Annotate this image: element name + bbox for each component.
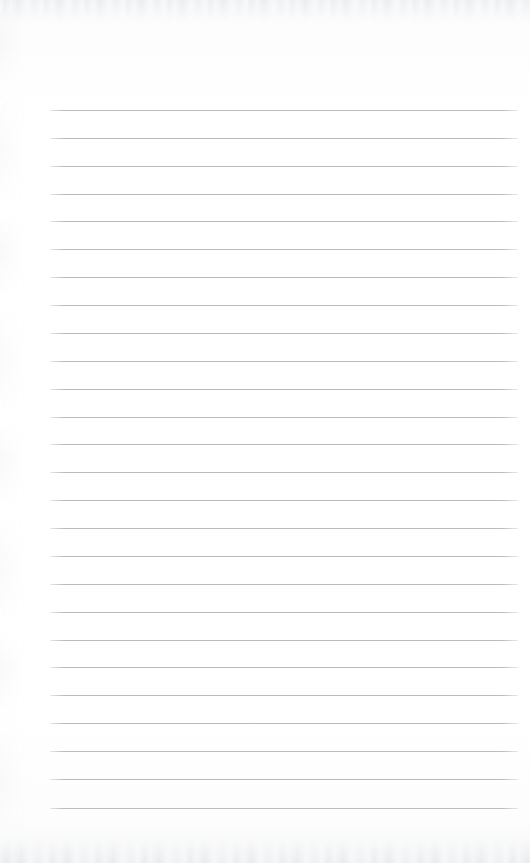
rule-line xyxy=(50,751,518,752)
rule-line xyxy=(50,695,518,696)
rule-line xyxy=(50,584,518,585)
rule-line xyxy=(50,389,518,390)
rule-line xyxy=(50,556,518,557)
rule-line xyxy=(50,723,518,724)
rule-line xyxy=(50,305,518,306)
rule-line xyxy=(50,612,518,613)
rule-line xyxy=(50,472,518,473)
rule-line xyxy=(50,361,518,362)
rule-line xyxy=(50,808,518,809)
rule-line xyxy=(50,194,518,195)
rule-line xyxy=(50,667,518,668)
rule-line xyxy=(50,640,518,641)
rule-line xyxy=(50,249,518,250)
rule-line xyxy=(50,138,518,139)
scanned-page xyxy=(0,0,530,863)
rule-line xyxy=(50,166,518,167)
ruled-lines-group xyxy=(0,0,530,863)
rule-line xyxy=(50,110,518,111)
rule-line xyxy=(50,779,518,780)
rule-line xyxy=(50,528,518,529)
rule-line xyxy=(50,500,518,501)
rule-line xyxy=(50,444,518,445)
rule-line xyxy=(50,417,518,418)
rule-line xyxy=(50,221,518,222)
rule-line xyxy=(50,277,518,278)
rule-line xyxy=(50,333,518,334)
